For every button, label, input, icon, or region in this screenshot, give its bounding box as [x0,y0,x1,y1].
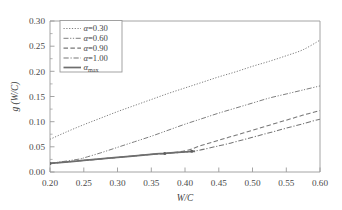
branch-marker [163,152,166,155]
legend-label-alpha-030: α=0.30 [84,23,108,33]
branch-marker [190,150,193,153]
chart-svg: 0.00 0.05 0.10 0.15 0.20 0.25 0.30 0.20 … [0,0,342,210]
x-tick-labels: 0.20 0.25 0.30 0.35 0.40 0.45 0.50 0.55 … [42,178,328,188]
y-tick-label: 0.00 [29,167,45,177]
y-tick-label: 0.10 [29,117,45,127]
y-axis-title: g (W/C) [10,82,21,112]
y-tick-label: 0.15 [29,92,45,102]
legend-label-alpha-090: α=0.90 [84,43,108,53]
y-tick-label: 0.20 [29,67,45,77]
x-tick-label: 0.60 [312,178,328,188]
y-tick-label: 0.25 [29,41,45,51]
x-tick-label: 0.25 [76,178,92,188]
legend: α=0.30 α=0.60 α=0.90 α=1.00 αmax [60,21,122,73]
x-axis-title: W/C [177,193,194,203]
x-tick-label: 0.30 [109,178,125,188]
x-tick-label: 0.55 [278,178,294,188]
y-tick-label: 0.05 [29,142,45,152]
x-tick-label: 0.35 [143,178,159,188]
x-tick-label: 0.40 [177,178,193,188]
legend-label-alpha-100: α=1.00 [84,53,108,63]
x-tick-label: 0.20 [42,178,58,188]
x-tick-label: 0.45 [211,178,227,188]
chart-figure: 0.00 0.05 0.10 0.15 0.20 0.25 0.30 0.20 … [0,0,342,210]
legend-label-alpha-060: α=0.60 [84,33,108,43]
x-tick-label: 0.50 [244,178,260,188]
y-tick-label: 0.30 [29,16,45,26]
